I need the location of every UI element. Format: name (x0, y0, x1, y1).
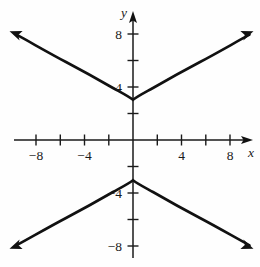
x-tick-label-4: 4 (178, 148, 185, 163)
x-axis-label: x (247, 145, 254, 160)
y-tick-label-4: 4 (115, 80, 122, 95)
y-tick-label--4: −4 (108, 186, 123, 201)
upper-branch-group (10, 31, 254, 100)
x-tick-label--4: −4 (77, 148, 92, 163)
y-axis-label: y (119, 5, 127, 20)
plot-canvas: −8 −4 4 8 8 4 −4 −8 y x (0, 0, 260, 267)
x-tick-label-8: 8 (227, 148, 234, 163)
lower-branch-group (10, 180, 254, 249)
hyperbola-graph-figure: −8 −4 4 8 8 4 −4 −8 y x (0, 0, 260, 267)
x-tick-label--8: −8 (29, 148, 44, 163)
y-tick-label--8: −8 (108, 239, 123, 254)
y-axis-group (129, 11, 137, 258)
y-tick-label-8: 8 (115, 27, 122, 42)
